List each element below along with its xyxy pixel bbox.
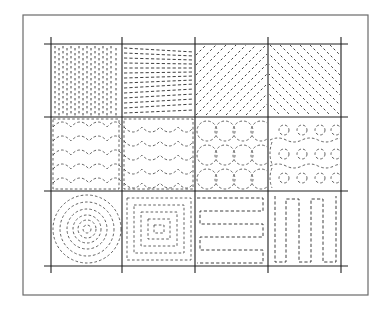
pattern-circles-wavy-bands [270, 125, 342, 188]
pattern-concentric-squares [127, 198, 191, 260]
pattern-offset-scallops [124, 119, 193, 189]
sampler-svg [0, 0, 384, 311]
pattern-horizontal-serpentine [197, 198, 263, 263]
pattern-vertical-dashes [55, 46, 116, 116]
pattern-vertical-serpentine [275, 196, 336, 262]
pattern-overlapping-circles [197, 121, 271, 189]
stitch-pattern-sampler [0, 0, 384, 311]
pattern-horizontal-dashes [124, 48, 194, 113]
pattern-diagonal-dashes-rising [196, 45, 326, 115]
pattern-concentric-circles [53, 195, 121, 263]
pattern-diagonal-dashes-falling [210, 45, 340, 115]
pattern-clamshell-scallops [53, 119, 121, 189]
